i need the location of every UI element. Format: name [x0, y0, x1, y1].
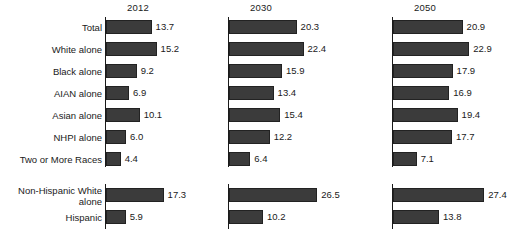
bar-value-label: 6.4 [254, 152, 267, 166]
bar [229, 130, 270, 144]
category-label: Total [82, 22, 102, 33]
category-label: Two or More Races [20, 154, 102, 165]
bar [393, 108, 458, 122]
category-label-line: White alone [52, 44, 102, 55]
category-label-line: alone [18, 196, 102, 207]
bar [393, 188, 484, 202]
bar-value-label: 13.8 [443, 210, 462, 224]
bar [106, 42, 157, 56]
bar-value-label: 9.2 [141, 64, 154, 78]
category-label-line: Total [82, 22, 102, 33]
category-label: Black alone [53, 66, 102, 77]
bar-value-label: 17.7 [456, 130, 475, 144]
bar [393, 20, 463, 34]
bar [106, 130, 126, 144]
panel-title-2030: 2030 [228, 2, 294, 13]
bar-value-label: 13.7 [156, 20, 175, 34]
bar-value-label: 15.2 [161, 42, 180, 56]
bar-value-label: 19.4 [462, 108, 481, 122]
bar-value-label: 15.9 [286, 64, 305, 78]
category-label: Asian alone [52, 110, 102, 121]
bar [393, 42, 469, 56]
bar-value-label: 22.9 [473, 42, 492, 56]
panel-title-2050: 2050 [392, 2, 458, 13]
bar-value-label: 16.9 [453, 86, 472, 100]
category-label-line: Asian alone [52, 110, 102, 121]
category-label: NHPI alone [53, 132, 102, 143]
bar [106, 152, 121, 166]
bar-value-label: 13.4 [278, 86, 297, 100]
bar-value-label: 17.9 [457, 64, 476, 78]
bar-value-label: 10.2 [267, 210, 286, 224]
bar-value-label: 10.1 [144, 108, 163, 122]
bar [229, 188, 317, 202]
category-label-line: NHPI alone [53, 132, 102, 143]
bar [229, 108, 280, 122]
category-label-line: Non-Hispanic White [18, 185, 102, 196]
bar-value-label: 5.9 [130, 210, 143, 224]
category-label-line: Two or More Races [20, 154, 102, 165]
bar-value-label: 6.0 [130, 130, 143, 144]
bar-value-label: 12.2 [274, 130, 293, 144]
bar [229, 210, 263, 224]
panel-2050: 2050 20.922.917.916.919.417.77.127.413.8 [392, 0, 514, 240]
category-label-column: TotalWhite aloneBlack aloneAIAN aloneAsi… [0, 0, 102, 240]
bar [393, 64, 453, 78]
bar [229, 64, 282, 78]
category-label: Non-Hispanic Whitealone [18, 185, 102, 207]
bar [106, 64, 137, 78]
bar-value-label: 27.4 [488, 188, 507, 202]
category-label-line: Hispanic [66, 212, 102, 223]
bar [106, 108, 140, 122]
bar [106, 20, 152, 34]
bar [229, 20, 297, 34]
bar-value-label: 20.3 [301, 20, 320, 34]
bar-value-label: 7.1 [421, 152, 434, 166]
bar-value-label: 15.4 [284, 108, 303, 122]
bar [229, 42, 304, 56]
category-label: AIAN alone [54, 88, 102, 99]
bar-value-label: 17.3 [168, 188, 187, 202]
bar [393, 130, 452, 144]
bar-value-label: 26.5 [321, 188, 340, 202]
category-label: White alone [52, 44, 102, 55]
bar [229, 86, 274, 100]
bar [393, 86, 449, 100]
bar-value-label: 6.9 [133, 86, 146, 100]
bar [229, 152, 250, 166]
bar-value-label: 22.4 [308, 42, 327, 56]
bar [106, 210, 126, 224]
category-label-line: AIAN alone [54, 88, 102, 99]
category-label-line: Black alone [53, 66, 102, 77]
bar [106, 188, 164, 202]
bar [393, 210, 439, 224]
panel-title-2012: 2012 [105, 2, 171, 13]
category-label: Hispanic [66, 212, 102, 223]
bar [106, 86, 129, 100]
bar-value-label: 4.4 [125, 152, 138, 166]
bar [393, 152, 417, 166]
bar-value-label: 20.9 [467, 20, 486, 34]
bar-chart: TotalWhite aloneBlack aloneAIAN aloneAsi… [0, 0, 514, 240]
